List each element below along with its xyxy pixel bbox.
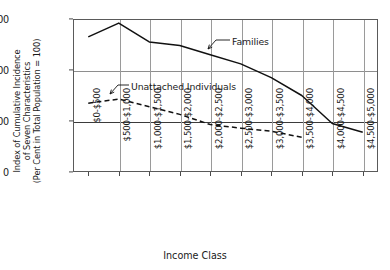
x-tick-mark-7 — [302, 172, 303, 176]
y-tick-label-200: 200 — [0, 65, 9, 76]
x-tick-label-4: $2,000-$2,500 — [214, 88, 224, 178]
gridline-x-9 — [364, 20, 365, 171]
x-tick-label-2: $1,000-$1,500 — [153, 88, 163, 178]
gridline-x-6 — [272, 20, 273, 171]
x-tick-mark-2 — [149, 172, 150, 176]
x-tick-mark-1 — [119, 172, 120, 176]
y-tick-label-100: 100 — [0, 116, 9, 127]
x-tick-mark-8 — [332, 172, 333, 176]
gridline-x-1 — [120, 20, 121, 171]
y-axis-title-line-3: (Per Cent in Total Population = 100) — [33, 39, 43, 184]
annotation-families: Families — [232, 36, 269, 47]
annotation-unattached-individuals: Unattached Individuals — [131, 81, 236, 92]
gridline-x-4 — [211, 20, 212, 171]
x-tick-mark-9 — [363, 172, 364, 176]
gridline-x-7 — [303, 20, 304, 171]
x-tick-label-1: $500-$1,000 — [122, 88, 132, 178]
x-tick-mark-0 — [88, 172, 89, 176]
chart-figure: Index of Cumulative Incidence of Seven C… — [0, 0, 390, 270]
x-tick-mark-6 — [271, 172, 272, 176]
y-tick-label-300: 300 — [0, 14, 9, 25]
x-tick-label-7: $3,500-$4,000 — [305, 88, 315, 178]
x-tick-label-9: $4,500-$5,000 — [366, 88, 376, 178]
gridline-x-2 — [150, 20, 151, 171]
x-tick-label-5: $2,500-$3,000 — [244, 88, 254, 178]
x-tick-label-3: $1,500-$2,000 — [183, 88, 193, 178]
x-tick-mark-5 — [241, 172, 242, 176]
x-tick-label-8: $4,000-$4,500 — [336, 88, 346, 178]
x-tick-label-6: $3,000-$3,500 — [275, 88, 285, 178]
x-tick-mark-3 — [180, 172, 181, 176]
gridline-x-3 — [181, 20, 182, 171]
x-tick-label-0: $0-$500 — [92, 88, 102, 178]
gridline-x-8 — [333, 20, 334, 171]
x-tick-mark-4 — [210, 172, 211, 176]
plot-area — [73, 19, 378, 172]
y-tick-label-0: 0 — [0, 167, 9, 178]
x-axis-title: Income Class — [0, 250, 390, 261]
